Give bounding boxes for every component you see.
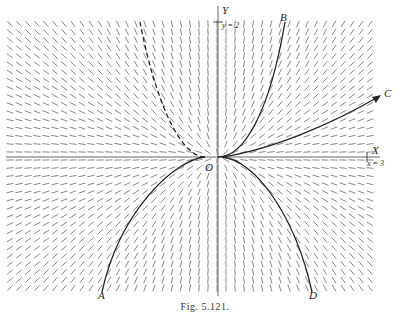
slope-segment bbox=[7, 70, 12, 73]
slope-segment bbox=[116, 222, 121, 227]
slope-segment bbox=[80, 277, 84, 282]
slope-segment bbox=[288, 269, 290, 275]
slope-segment bbox=[180, 93, 182, 99]
slope-segment bbox=[79, 214, 84, 217]
slope-segment bbox=[269, 101, 273, 106]
slope-segment bbox=[279, 285, 281, 291]
slope-segment bbox=[160, 134, 166, 137]
slope-segment bbox=[70, 94, 75, 97]
slope-segment bbox=[277, 182, 282, 185]
slope-segment bbox=[332, 230, 337, 234]
slope-segment bbox=[244, 37, 245, 43]
slope-segment bbox=[62, 30, 66, 35]
slope-segment bbox=[332, 21, 335, 27]
slope-segment bbox=[358, 111, 364, 114]
slope-segment bbox=[107, 37, 110, 42]
slope-segment bbox=[117, 277, 120, 283]
slope-segment bbox=[124, 190, 130, 193]
slope-segment bbox=[349, 119, 355, 121]
slope-segment bbox=[305, 61, 308, 66]
slope-segment bbox=[162, 45, 164, 51]
slope-segment bbox=[199, 277, 200, 283]
slope-segment bbox=[116, 102, 121, 106]
slope-segment bbox=[171, 61, 173, 67]
slope-segment bbox=[62, 278, 66, 283]
slope-segment bbox=[315, 277, 318, 283]
slope-segment bbox=[197, 133, 200, 138]
slope-segment bbox=[126, 29, 129, 35]
slope-segment bbox=[287, 206, 291, 211]
slope-segment bbox=[79, 199, 85, 202]
slope-segment bbox=[43, 103, 49, 106]
slope-segment bbox=[277, 175, 283, 178]
slope-segment bbox=[189, 261, 190, 267]
slope-segment bbox=[226, 189, 227, 195]
slope-segment bbox=[162, 69, 165, 75]
slope-segment bbox=[180, 253, 182, 259]
slope-segment bbox=[305, 237, 309, 242]
slope-segment bbox=[16, 111, 22, 113]
slope-segment bbox=[261, 277, 262, 283]
slope-segment bbox=[306, 29, 309, 35]
slope-segment bbox=[134, 229, 138, 234]
slope-segment bbox=[259, 174, 264, 177]
slope-segment bbox=[331, 175, 337, 177]
slope-segment bbox=[278, 85, 281, 90]
slope-segment bbox=[349, 168, 355, 169]
slope-segment bbox=[180, 205, 183, 211]
slope-segment bbox=[17, 22, 22, 27]
slope-segment bbox=[314, 45, 317, 50]
slope-segment bbox=[7, 191, 13, 193]
slope-segment bbox=[189, 61, 190, 67]
slope-segment bbox=[171, 245, 173, 251]
slope-segment bbox=[359, 238, 364, 242]
slope-segment bbox=[124, 143, 130, 144]
slope-segment bbox=[234, 197, 236, 203]
slope-segment bbox=[234, 181, 236, 187]
slope-segment bbox=[79, 119, 85, 121]
slope-segment bbox=[16, 230, 22, 233]
slope-segment bbox=[313, 183, 319, 185]
slope-segment bbox=[358, 183, 364, 185]
slope-segment bbox=[34, 70, 39, 74]
slope-segment bbox=[359, 246, 364, 250]
slope-segment bbox=[8, 286, 13, 290]
slope-segment bbox=[313, 191, 319, 194]
slope-segment bbox=[226, 213, 227, 219]
slope-segment bbox=[43, 199, 49, 201]
slope-segment bbox=[340, 214, 345, 218]
slope-segment bbox=[7, 207, 13, 209]
slope-segment bbox=[314, 238, 318, 243]
slope-segment bbox=[161, 93, 164, 98]
slope-segment bbox=[296, 77, 300, 82]
slope-segment bbox=[349, 144, 355, 145]
slope-segment bbox=[225, 125, 226, 131]
slope-segment bbox=[359, 62, 364, 66]
slope-segment bbox=[244, 53, 245, 59]
slope-segment bbox=[279, 269, 281, 275]
slope-segment bbox=[7, 168, 13, 169]
slope-segment bbox=[162, 29, 164, 35]
slope-segment bbox=[331, 127, 337, 129]
slope-segment bbox=[367, 175, 373, 176]
slope-segment bbox=[16, 223, 22, 226]
slope-segment bbox=[124, 183, 130, 186]
slope-segment bbox=[8, 262, 13, 266]
slope-segment bbox=[44, 286, 48, 291]
slope-segment bbox=[107, 222, 112, 226]
slope-segment bbox=[261, 61, 263, 67]
slope-segment bbox=[359, 285, 363, 290]
slope-segment bbox=[153, 45, 155, 51]
slope-segment bbox=[161, 190, 166, 194]
slope-segment bbox=[243, 253, 244, 259]
slope-segment bbox=[297, 45, 300, 51]
slope-segment bbox=[207, 189, 208, 195]
slope-segment bbox=[350, 86, 355, 90]
slope-segment bbox=[341, 254, 345, 259]
slope-segment bbox=[79, 144, 85, 145]
slope-segment bbox=[322, 102, 327, 106]
slope-segment bbox=[89, 254, 93, 259]
slope-segment bbox=[278, 118, 283, 122]
slope-segment bbox=[70, 207, 76, 210]
slope-segment bbox=[88, 206, 93, 209]
